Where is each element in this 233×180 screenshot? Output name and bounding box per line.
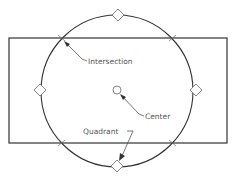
quadrant-marker-bottom [111, 160, 123, 172]
center-label: Center [145, 112, 171, 121]
quadrant-marker-right [190, 84, 202, 96]
intersection-leader [66, 43, 87, 61]
quadrant-marker-top [112, 9, 124, 21]
quadrant-marker-left [34, 84, 46, 96]
intersection-label: Intersection [88, 57, 133, 66]
quadrant-label: Quadrant [83, 127, 118, 136]
quadrant-markers [34, 9, 202, 172]
osnap-diagram: Intersection Center Quadrant [0, 0, 233, 180]
center-marker [113, 86, 121, 94]
quadrant-arrowhead [119, 153, 125, 161]
